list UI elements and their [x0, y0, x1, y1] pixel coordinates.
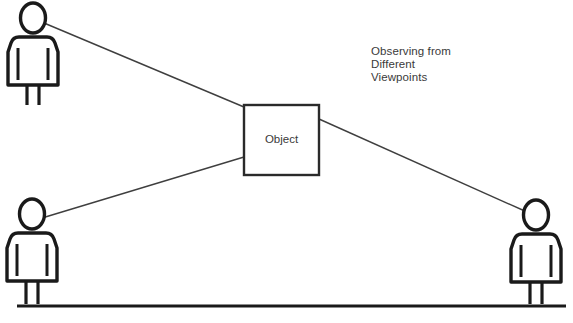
- sight-line-right: [319, 119, 527, 212]
- annotation-line-1: Observing from: [371, 45, 451, 57]
- annotation-line-3: Viewpoints: [371, 71, 427, 83]
- torso-shape: [511, 234, 561, 282]
- torso-shape: [7, 233, 57, 281]
- sight-line-bottom-left: [42, 157, 244, 218]
- sight-line-top-left: [44, 23, 244, 107]
- annotation-line-2: Different: [371, 58, 415, 70]
- observer-figure-right: [511, 200, 561, 304]
- torso-shape: [8, 37, 58, 85]
- head-icon: [21, 3, 46, 33]
- diagram-canvas: [0, 0, 573, 323]
- viewpoint-annotation: Observing from Different Viewpoints: [371, 45, 451, 85]
- observer-figure-top-left: [8, 3, 58, 105]
- observer-figure-bottom-left: [7, 199, 57, 304]
- viewpoints-diagram: Object Observing from Different Viewpoin…: [0, 0, 573, 323]
- object-label: Object: [244, 133, 319, 145]
- head-icon: [20, 199, 45, 229]
- head-icon: [524, 200, 549, 230]
